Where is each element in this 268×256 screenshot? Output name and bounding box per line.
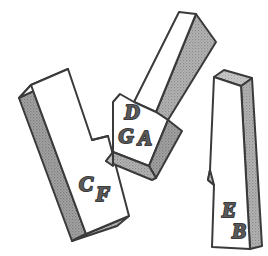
label-G: G	[118, 124, 133, 148]
label-F: F	[95, 182, 110, 206]
label-B: B	[231, 219, 246, 243]
figure-canvas: C F D G A	[0, 0, 268, 256]
figure-svg: C F D G A	[0, 0, 268, 256]
label-A: A	[136, 126, 152, 150]
piece-right-vertical-bar: E B	[208, 70, 262, 249]
label-C: C	[79, 172, 94, 196]
label-D: D	[123, 100, 139, 124]
